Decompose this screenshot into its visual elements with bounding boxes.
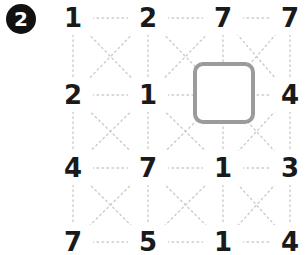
selected-cell-highlight[interactable]: [193, 62, 255, 124]
grid-cell-r3-c2[interactable]: 1: [203, 225, 243, 255]
grid-cell-r3-c0[interactable]: 7: [53, 225, 93, 255]
grid-cell-r1-c3[interactable]: 4: [270, 78, 305, 112]
grid-cell-r2-c1[interactable]: 7: [128, 151, 168, 185]
grid-numbers: 127721447137514: [0, 0, 305, 255]
grid-cell-r0-c3[interactable]: 7: [270, 1, 305, 35]
grid-cell-r2-c0[interactable]: 4: [53, 151, 93, 185]
grid-cell-r2-c3[interactable]: 3: [270, 151, 305, 185]
grid-cell-r3-c1[interactable]: 5: [128, 225, 168, 255]
grid-cell-r3-c3[interactable]: 4: [270, 225, 305, 255]
connector-lines-svg: [0, 0, 305, 255]
grid-cell-r0-c1[interactable]: 2: [128, 1, 168, 35]
grid-connectors: [0, 0, 305, 255]
step-number-badge: 2: [6, 4, 36, 34]
step-number-badge-label: 2: [14, 9, 28, 29]
grid-cell-r1-c1[interactable]: 1: [128, 78, 168, 112]
puzzle-canvas: 2 127721447137514: [0, 0, 305, 255]
grid-cell-r0-c2[interactable]: 7: [203, 1, 243, 35]
grid-cell-r1-c0[interactable]: 2: [53, 78, 93, 112]
grid-cell-r2-c2[interactable]: 1: [203, 151, 243, 185]
grid-cell-r0-c0[interactable]: 1: [53, 1, 93, 35]
